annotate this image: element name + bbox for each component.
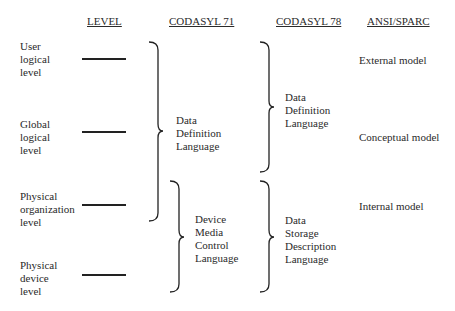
- brace-icon: [170, 181, 184, 292]
- codasyl78-ddl: Data Definition Language: [285, 91, 330, 130]
- brace-icon: [260, 42, 274, 172]
- ansi-external-model: External model: [359, 54, 427, 67]
- brace-icon: [260, 181, 274, 292]
- codasyl71-dmcl: Device Media Control Language: [195, 213, 238, 265]
- brace-icon: [149, 42, 163, 221]
- codasyl78-dsdl: Data Storage Description Language: [285, 214, 336, 266]
- ansi-internal-model: Internal model: [359, 200, 423, 213]
- ansi-conceptual-model: Conceptual model: [359, 131, 439, 144]
- codasyl71-ddl: Data Definition Language: [176, 114, 221, 153]
